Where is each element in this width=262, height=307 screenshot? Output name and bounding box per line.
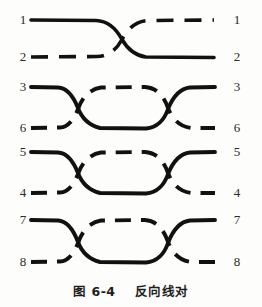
terminal-label-left-6: 4	[16, 186, 30, 199]
pair-group-2	[31, 87, 215, 129]
pair-4-solid-conductor	[31, 220, 215, 263]
pair-group-4	[31, 220, 215, 263]
figure-caption: 图 6-4 反向线对	[0, 281, 262, 300]
terminal-label-left-2: 2	[16, 50, 30, 63]
terminal-label-left-1: 1	[16, 13, 30, 26]
pair-3-solid-conductor	[31, 152, 215, 194]
terminal-label-right-1: 1	[230, 13, 244, 26]
pair-group-1	[31, 20, 214, 58]
terminal-label-right-4: 6	[230, 121, 244, 134]
terminal-label-left-3: 3	[16, 80, 30, 93]
terminal-label-left-5: 5	[16, 145, 30, 158]
terminal-label-right-3: 3	[230, 80, 244, 93]
pair-1-dashed-conductor	[31, 20, 214, 57]
terminal-label-right-5: 5	[230, 145, 244, 158]
terminal-label-right-8: 8	[230, 255, 244, 268]
terminal-label-right-2: 2	[230, 50, 244, 63]
terminal-label-left-4: 6	[16, 121, 30, 134]
terminal-label-left-8: 8	[16, 255, 30, 268]
terminal-label-right-7: 7	[230, 213, 244, 226]
pair-group-3	[31, 152, 215, 194]
pair-2-dashed-conductor	[31, 87, 215, 128]
pair-2-solid-conductor	[31, 87, 215, 129]
pair-4-dashed-conductor	[31, 220, 215, 262]
reverse-line-pair-diagram	[0, 0, 262, 307]
terminal-label-left-7: 7	[16, 213, 30, 226]
pair-3-dashed-conductor	[31, 152, 215, 193]
terminal-label-right-6: 4	[230, 186, 244, 199]
